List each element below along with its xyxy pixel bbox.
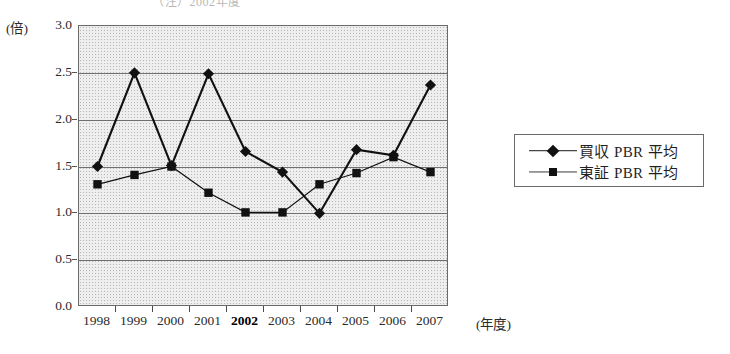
y-axis-unit-label: (倍) bbox=[6, 17, 28, 37]
series-layer bbox=[79, 26, 449, 307]
x-axis-tick bbox=[226, 306, 227, 312]
legend-item-0: 買収 PBR 平均 bbox=[515, 140, 703, 161]
x-axis-tick bbox=[411, 306, 412, 312]
data-point-square bbox=[278, 208, 286, 216]
data-point-square bbox=[352, 169, 360, 177]
data-point-square bbox=[241, 208, 249, 216]
chart-page: （注）2002年度 (倍) 0.00.51.01.52.02.53.0 1998… bbox=[0, 0, 730, 354]
series-line bbox=[98, 73, 431, 214]
data-point-diamond bbox=[129, 67, 140, 78]
y-axis-tick-label: 3.0 bbox=[38, 17, 72, 33]
legend-label-0: 買収 PBR 平均 bbox=[579, 140, 678, 161]
data-point-diamond bbox=[351, 144, 362, 155]
y-axis-tick-label: 0.0 bbox=[38, 298, 72, 314]
data-point-diamond bbox=[240, 146, 251, 157]
series-diamond bbox=[92, 67, 436, 219]
data-point-square bbox=[167, 162, 175, 170]
x-axis-tick bbox=[152, 306, 153, 312]
x-axis-tick-label: 2004 bbox=[305, 313, 332, 329]
data-point-diamond bbox=[203, 68, 214, 79]
data-point-square bbox=[426, 168, 434, 176]
x-axis-tick-label: 2003 bbox=[268, 313, 295, 329]
x-axis-tick bbox=[115, 306, 116, 312]
legend-square-marker-icon bbox=[527, 163, 579, 181]
top-note: （注）2002年度 bbox=[152, 0, 241, 10]
legend-label-1: 東証 PBR 平均 bbox=[579, 161, 678, 182]
data-point-square bbox=[389, 153, 397, 161]
x-axis-tick-label: 2001 bbox=[194, 313, 221, 329]
legend-diamond-marker-icon bbox=[527, 142, 579, 160]
x-axis-tick bbox=[263, 306, 264, 312]
x-axis-tick bbox=[300, 306, 301, 312]
x-axis-ticks bbox=[78, 306, 448, 313]
x-axis-tick bbox=[374, 306, 375, 312]
plot-area bbox=[78, 25, 448, 306]
data-point-square bbox=[204, 189, 212, 197]
x-axis-unit-label: (年度) bbox=[476, 313, 511, 333]
x-axis-tick-label: 2005 bbox=[342, 313, 369, 329]
y-axis-tick-label: 2.0 bbox=[38, 111, 72, 127]
x-axis-tick bbox=[189, 306, 190, 312]
data-point-diamond bbox=[425, 79, 436, 90]
y-axis-tick bbox=[72, 72, 77, 73]
data-point-square bbox=[93, 180, 101, 188]
y-axis-tick-label: 2.5 bbox=[38, 64, 72, 80]
x-axis-tick-label: 2002 bbox=[231, 313, 258, 329]
x-axis-tick-label: 2000 bbox=[157, 313, 184, 329]
y-axis-tick-label: 1.0 bbox=[38, 204, 72, 220]
data-point-square bbox=[315, 180, 323, 188]
legend-item-1: 東証 PBR 平均 bbox=[515, 161, 703, 182]
x-axis-tick-labels: 1998199920002001200220032004200520062007 bbox=[78, 313, 448, 335]
y-axis-tick bbox=[72, 166, 77, 167]
y-axis-tick bbox=[72, 212, 77, 213]
x-axis-tick-label: 1998 bbox=[83, 313, 110, 329]
x-axis-tick-label: 1999 bbox=[120, 313, 147, 329]
x-axis-tick bbox=[337, 306, 338, 312]
y-axis-tick-labels: 0.00.51.01.52.02.53.0 bbox=[34, 25, 72, 306]
y-axis-tick-label: 1.5 bbox=[38, 158, 72, 174]
series-line bbox=[98, 157, 431, 212]
x-axis-tick-label: 2006 bbox=[379, 313, 406, 329]
data-point-diamond bbox=[92, 161, 103, 172]
y-axis-tick-label: 0.5 bbox=[38, 251, 72, 267]
y-axis-tick bbox=[72, 119, 77, 120]
data-point-square bbox=[130, 171, 138, 179]
y-axis-tick bbox=[72, 259, 77, 260]
x-axis-tick-label: 2007 bbox=[416, 313, 443, 329]
legend: 買収 PBR 平均 東証 PBR 平均 bbox=[514, 134, 704, 187]
